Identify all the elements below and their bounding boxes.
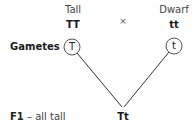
right-gamete-allele: t (172, 41, 176, 51)
f1-offspring-genotype: Tt (117, 112, 129, 122)
f1-label: F1 – all tall (10, 112, 66, 122)
f1-description: – all tall (24, 111, 66, 122)
gametes-label: Gametes (10, 42, 60, 52)
left-parent-phenotype: Tall (65, 5, 81, 15)
cross-symbol: × (119, 17, 127, 26)
right-parent-phenotype: Dwarf (159, 5, 189, 15)
right-parent-genotype: tt (169, 20, 179, 30)
f1-prefix: F1 (10, 111, 24, 122)
left-gamete-line (77, 53, 122, 107)
cross-lines (0, 0, 195, 127)
left-gamete-allele: T (69, 42, 75, 52)
left-parent-genotype: TT (66, 20, 80, 30)
right-gamete-line (124, 52, 169, 107)
